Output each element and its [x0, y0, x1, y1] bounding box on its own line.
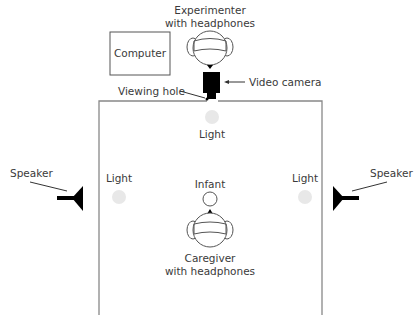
speaker-left-pointer	[30, 182, 67, 191]
arrowhead-icon	[224, 80, 229, 84]
light-top-label: Light	[199, 128, 225, 140]
experimenter-label-line2: with headphones	[165, 17, 255, 29]
caregiver-label-line1: Caregiver	[185, 252, 237, 264]
light-top-icon	[205, 110, 219, 124]
speaker-left-label: Speaker	[10, 167, 53, 179]
speaker-right-pointer	[352, 182, 387, 191]
infant-label: Infant	[195, 178, 226, 190]
viewing-hole-dot-icon	[206, 98, 209, 101]
infant-head-icon	[203, 192, 217, 206]
video-camera-icon	[203, 72, 220, 99]
light-right-label: Light	[292, 172, 318, 184]
computer-label: Computer	[114, 47, 167, 59]
light-left-label: Light	[106, 172, 132, 184]
light-left-icon	[112, 190, 126, 204]
experimenter-headphones-icon	[187, 31, 233, 65]
caregiver-headphones-icon	[187, 213, 233, 247]
experimenter-facing-arrow-icon	[207, 65, 213, 69]
viewing-hole-label: Viewing hole	[118, 85, 185, 97]
experimenter-label-line1: Experimenter	[174, 4, 246, 16]
light-right-icon	[298, 190, 312, 204]
experiment-diagram: Experimenter with headphones Computer Vi…	[0, 0, 415, 327]
caregiver-label-line2: with headphones	[165, 265, 255, 277]
speaker-right-label: Speaker	[370, 167, 413, 179]
video-camera-label: Video camera	[249, 76, 321, 88]
